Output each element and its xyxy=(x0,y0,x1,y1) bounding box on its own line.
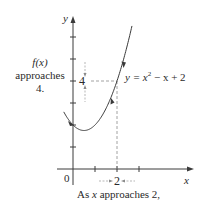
bottom-annotation-suffix: approaches 2, xyxy=(97,188,160,200)
left-annotation: f(x) approaches 4. xyxy=(10,56,70,95)
x-axis-arrow-icon xyxy=(187,167,194,172)
graph-canvas xyxy=(0,0,205,212)
x-approach-arrow-right-icon xyxy=(109,180,113,183)
x-axis-label: x xyxy=(184,174,189,186)
annotation-approaches: approaches xyxy=(10,69,70,82)
y-tick-label-4: 4 xyxy=(79,75,85,87)
x-approach-arrow-left-icon xyxy=(121,180,125,183)
y-axis-label: y xyxy=(63,12,68,24)
x-tick-label-2: 2 xyxy=(114,175,120,187)
curve-arrow-up-icon xyxy=(111,98,115,105)
annotation-fx: f(x) xyxy=(10,56,70,69)
bottom-annotation-prefix: As xyxy=(77,188,92,200)
annotation-value: 4. xyxy=(10,82,70,95)
equation-prefix: y = x xyxy=(125,71,148,83)
equation-suffix: − x + 2 xyxy=(151,71,185,83)
bottom-annotation: As x approaches 2, xyxy=(77,188,160,200)
y-axis-arrow-icon xyxy=(71,16,76,23)
curve-equation-label: y = x2 − x + 2 xyxy=(125,68,186,83)
origin-label: 0 xyxy=(64,172,70,184)
parabola-curve xyxy=(64,26,132,131)
